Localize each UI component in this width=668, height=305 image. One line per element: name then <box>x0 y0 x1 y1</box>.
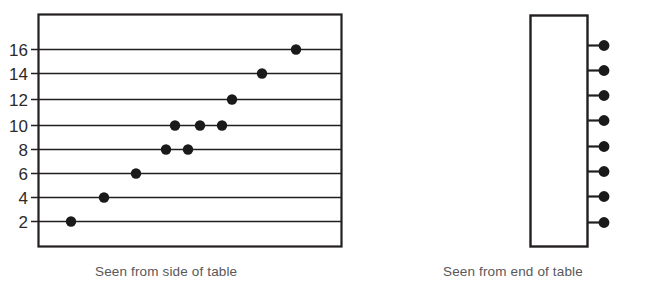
data-point-marker <box>599 166 610 177</box>
table-outline-end <box>531 16 588 247</box>
figure-two-panel-table-views: 16 14 12 10 8 6 4 2 <box>0 0 668 305</box>
data-point-marker <box>227 94 237 104</box>
y-tick-label-8: 8 <box>19 141 28 160</box>
data-point-marker <box>183 144 193 154</box>
data-point-marker <box>99 192 109 202</box>
y-tick-label-6: 6 <box>19 165 28 184</box>
data-point-marker <box>131 168 141 178</box>
data-point-marker <box>599 65 610 76</box>
data-point-marker <box>291 44 301 54</box>
data-point-marker <box>170 120 180 130</box>
data-point-marker <box>599 90 610 101</box>
y-axis-tick-labels: 16 14 12 10 8 6 4 2 <box>9 41 28 232</box>
caption-end-view: Seen from end of table <box>443 264 583 279</box>
data-point-marker <box>599 191 610 202</box>
data-point-marker <box>161 144 171 154</box>
data-point-marker <box>599 217 610 228</box>
y-tick-label-2: 2 <box>19 213 28 232</box>
panel-end-view <box>531 16 610 247</box>
y-tick-label-4: 4 <box>19 189 28 208</box>
data-point-marker <box>195 120 205 130</box>
data-point-marker <box>599 141 610 152</box>
panel-side-view: 16 14 12 10 8 6 4 2 <box>9 15 341 247</box>
data-point-marker <box>217 120 227 130</box>
data-point-marker <box>599 115 610 126</box>
y-tick-label-10: 10 <box>9 117 28 136</box>
data-point-marker <box>257 68 267 78</box>
caption-side-view: Seen from side of table <box>95 264 237 279</box>
figure-canvas: 16 14 12 10 8 6 4 2 <box>0 0 668 305</box>
data-points-end-view <box>599 40 610 228</box>
y-tick-label-16: 16 <box>9 41 28 60</box>
data-point-marker <box>599 40 610 51</box>
data-point-marker <box>66 216 76 226</box>
y-tick-label-12: 12 <box>9 91 28 110</box>
y-tick-label-14: 14 <box>9 65 28 84</box>
